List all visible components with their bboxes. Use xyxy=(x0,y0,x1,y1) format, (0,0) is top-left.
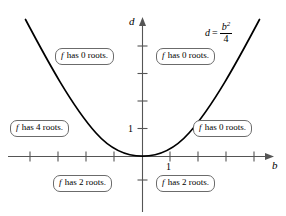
equation-equals: = xyxy=(210,27,220,38)
callout-upper-left: f has 0 roots. xyxy=(55,48,114,65)
callout-upper-right-text: has 0 roots. xyxy=(166,50,210,60)
callout-mid-right-text: has 0 roots. xyxy=(203,122,247,132)
x-tick-label-1: 1 xyxy=(166,162,171,172)
callout-lower-left-text: has 2 roots. xyxy=(63,177,107,187)
callout-mid-left-text: has 4 roots. xyxy=(20,122,64,132)
y-tick-label-1: 1 xyxy=(128,124,133,134)
y-axis-label: d xyxy=(129,16,135,27)
callout-mid-left: f has 4 roots. xyxy=(10,120,69,137)
callout-upper-right: f has 0 roots. xyxy=(156,48,215,65)
plot-canvas xyxy=(0,0,286,216)
equation-fraction: b24 xyxy=(220,21,233,44)
y-axis-arrowhead xyxy=(139,17,146,26)
equation-numerator: b2 xyxy=(220,21,233,34)
callout-lower-right: f has 2 roots. xyxy=(156,175,215,192)
equation-denominator: 4 xyxy=(220,34,233,45)
curve-equation-label: d=b24 xyxy=(205,22,232,45)
equation-numerator-exponent: 2 xyxy=(227,20,231,28)
callout-lower-right-text: has 2 roots. xyxy=(166,177,210,187)
y-axis xyxy=(138,17,148,212)
callout-upper-left-text: has 0 roots. xyxy=(65,50,109,60)
discriminant-diagram: d b 1 1 d=b24 f has 0 roots. f has 0 roo… xyxy=(0,0,286,216)
x-axis-label: b xyxy=(272,160,278,171)
callout-mid-right: f has 0 roots. xyxy=(193,120,252,137)
callout-lower-left: f has 2 roots. xyxy=(53,175,112,192)
